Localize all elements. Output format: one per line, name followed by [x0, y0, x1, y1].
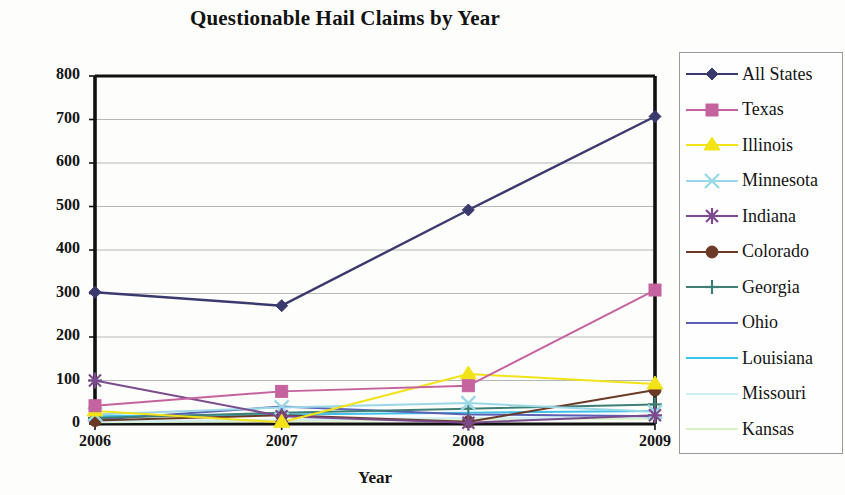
legend-marker-square-icon [684, 99, 740, 121]
series-point-illinois [460, 366, 476, 379]
legend-marker [706, 68, 718, 80]
legend-marker-line-icon [684, 347, 740, 369]
legend-marker-plus-icon [684, 276, 740, 298]
legend-item-label: Indiana [742, 206, 796, 227]
legend-item-label: Ohio [742, 312, 778, 333]
series-point-all-states [649, 110, 661, 122]
marker-diamond [649, 110, 661, 122]
legend-marker-line-icon [684, 383, 740, 405]
legend-item-kansas[interactable]: Kansas [680, 412, 844, 446]
legend-item-illinois[interactable]: Illinois [680, 128, 844, 162]
marker-diamond [462, 204, 474, 216]
series-point-illinois [647, 376, 663, 389]
marker-circle [706, 246, 718, 258]
legend-item-texas[interactable]: Texas [680, 93, 844, 127]
series-point-all-states [89, 286, 101, 298]
marker-triangle [460, 366, 476, 379]
series-point-texas [462, 380, 474, 392]
legend-marker-x-icon [684, 170, 740, 192]
series-line-texas [95, 290, 655, 406]
legend-marker-star-icon [684, 205, 740, 227]
legend-marker [706, 246, 718, 258]
legend-item-label: All States [742, 64, 813, 85]
legend-item-ohio[interactable]: Ohio [680, 306, 844, 340]
series-point-all-states [462, 204, 474, 216]
legend-item-all-states[interactable]: All States [680, 57, 844, 91]
legend-item-label: Kansas [742, 419, 794, 440]
legend-item-indiana[interactable]: Indiana [680, 199, 844, 233]
legend-marker-line-icon [684, 418, 740, 440]
legend-item-label: Texas [742, 99, 784, 120]
marker-square [706, 104, 718, 116]
marker-square [89, 400, 101, 412]
chart-container: Questionable Hail Claims by Year # Claim… [0, 0, 845, 495]
legend-item-colorado[interactable]: Colorado [680, 235, 844, 269]
marker-diamond [89, 286, 101, 298]
legend-item-georgia[interactable]: Georgia [680, 270, 844, 304]
legend-item-louisiana[interactable]: Louisiana [680, 341, 844, 375]
legend-item-label: Louisiana [742, 348, 813, 369]
legend-item-label: Georgia [742, 277, 800, 298]
legend-item-missouri[interactable]: Missouri [680, 377, 844, 411]
marker-square [649, 284, 661, 296]
series-line-all-states [95, 116, 655, 305]
marker-triangle [704, 137, 720, 150]
series-point-texas [89, 400, 101, 412]
series-point-indiana [88, 373, 102, 389]
legend-item-label: Minnesota [742, 170, 818, 191]
legend-marker-line-icon [684, 312, 740, 334]
legend-marker-circle-icon [684, 241, 740, 263]
legend-item-minnesota[interactable]: Minnesota [680, 164, 844, 198]
series-point-indiana [648, 407, 662, 423]
legend-marker-triangle-icon [684, 134, 740, 156]
legend-marker [705, 280, 719, 294]
marker-square [276, 385, 288, 397]
x-axis-title: Year [95, 468, 655, 488]
series-point-all-states [276, 300, 288, 312]
series-point-texas [276, 385, 288, 397]
marker-square [462, 380, 474, 392]
legend-marker [704, 137, 720, 150]
series-point-indiana [461, 415, 475, 431]
legend-marker-diamond-icon [684, 63, 740, 85]
legend: All StatesTexasIllinoisMinnesotaIndianaC… [679, 52, 843, 454]
marker-triangle [647, 376, 663, 389]
legend-item-label: Illinois [742, 135, 793, 156]
legend-item-label: Missouri [742, 383, 806, 404]
marker-diamond [706, 68, 718, 80]
series-point-texas [649, 284, 661, 296]
legend-marker [705, 208, 719, 224]
legend-item-label: Colorado [742, 241, 809, 262]
marker-diamond [276, 300, 288, 312]
legend-marker [706, 104, 718, 116]
